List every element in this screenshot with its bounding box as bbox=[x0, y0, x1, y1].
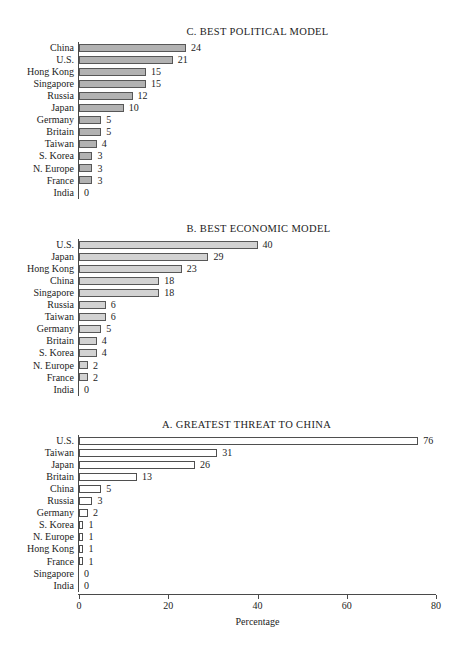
bar bbox=[79, 437, 418, 445]
category-label: France bbox=[0, 175, 74, 187]
bar-row: China18 bbox=[0, 275, 459, 287]
x-axis-tick-label: 60 bbox=[342, 600, 352, 612]
category-label: Singapore bbox=[0, 78, 74, 90]
panel-a-title: A. GREATEST THREAT TO CHINA bbox=[0, 419, 459, 430]
bar bbox=[79, 301, 106, 309]
category-label: India bbox=[0, 580, 74, 592]
category-label: Singapore bbox=[0, 287, 74, 299]
bar bbox=[79, 277, 159, 285]
bar-value-label: 3 bbox=[97, 163, 102, 175]
bar bbox=[79, 473, 137, 481]
bar-value-label: 1 bbox=[88, 531, 93, 543]
category-label: N. Europe bbox=[0, 163, 74, 175]
bar bbox=[79, 449, 217, 457]
bar bbox=[79, 80, 146, 88]
bar-value-label: 13 bbox=[142, 471, 152, 483]
category-label: S. Korea bbox=[0, 519, 74, 531]
bar bbox=[79, 68, 146, 76]
bar-row: U.S.40 bbox=[0, 239, 459, 251]
bar bbox=[79, 56, 173, 64]
bar-row: Japan26 bbox=[0, 459, 459, 471]
bar bbox=[79, 557, 83, 565]
x-axis-tick bbox=[436, 595, 437, 599]
bar bbox=[79, 497, 92, 505]
bar-value-label: 2 bbox=[93, 507, 98, 519]
bar-value-label: 29 bbox=[213, 251, 223, 263]
category-label: Russia bbox=[0, 299, 74, 311]
bar-value-label: 5 bbox=[106, 323, 111, 335]
bar bbox=[79, 128, 101, 136]
bar-row: S. Korea4 bbox=[0, 347, 459, 359]
bar-row: N. Europe1 bbox=[0, 531, 459, 543]
category-label: Russia bbox=[0, 495, 74, 507]
bar-row: Germany5 bbox=[0, 114, 459, 126]
bar-row: China5 bbox=[0, 483, 459, 495]
bar-row: Japan29 bbox=[0, 251, 459, 263]
bar-row: Russia12 bbox=[0, 90, 459, 102]
bar-row: S. Korea1 bbox=[0, 519, 459, 531]
bar bbox=[79, 533, 83, 541]
bar-value-label: 18 bbox=[164, 275, 174, 287]
category-label: Britain bbox=[0, 126, 74, 138]
bar bbox=[79, 92, 133, 100]
bar bbox=[79, 116, 101, 124]
bar-value-label: 3 bbox=[97, 175, 102, 187]
bar bbox=[79, 337, 97, 345]
panel-b-title: B. BEST ECONOMIC MODEL bbox=[0, 223, 459, 234]
x-axis-title: Percentage bbox=[0, 616, 459, 627]
category-label: U.S. bbox=[0, 435, 74, 447]
panel-c-title: C. BEST POLITICAL MODEL bbox=[0, 26, 459, 37]
bar-row: Russia6 bbox=[0, 299, 459, 311]
bar-value-label: 5 bbox=[106, 114, 111, 126]
bar bbox=[79, 253, 208, 261]
category-label: China bbox=[0, 42, 74, 54]
bar-value-label: 21 bbox=[178, 54, 188, 66]
category-label: U.S. bbox=[0, 239, 74, 251]
bar-value-label: 15 bbox=[151, 66, 161, 78]
category-label: Taiwan bbox=[0, 447, 74, 459]
bar-row: Hong Kong15 bbox=[0, 66, 459, 78]
category-label: India bbox=[0, 384, 74, 396]
bar bbox=[79, 140, 97, 148]
x-axis-tick-label: 20 bbox=[163, 600, 173, 612]
bar-row: Taiwan31 bbox=[0, 447, 459, 459]
bar-value-label: 24 bbox=[191, 42, 201, 54]
bar-row: N. Europe2 bbox=[0, 360, 459, 372]
bar-value-label: 18 bbox=[164, 287, 174, 299]
bar bbox=[79, 44, 186, 52]
bar-row: France2 bbox=[0, 372, 459, 384]
bar-row: Singapore18 bbox=[0, 287, 459, 299]
category-label: Singapore bbox=[0, 568, 74, 580]
bar bbox=[79, 361, 88, 369]
bar bbox=[79, 176, 92, 184]
category-label: N. Europe bbox=[0, 360, 74, 372]
bar bbox=[79, 373, 88, 381]
bar-row: N. Europe3 bbox=[0, 163, 459, 175]
category-label: Germany bbox=[0, 507, 74, 519]
bar-value-label: 0 bbox=[84, 580, 89, 592]
category-label: Germany bbox=[0, 114, 74, 126]
bar-value-label: 5 bbox=[106, 126, 111, 138]
bar-value-label: 2 bbox=[93, 360, 98, 372]
bar-row: Britain5 bbox=[0, 126, 459, 138]
x-axis-tick-label: 80 bbox=[431, 600, 441, 612]
category-label: Hong Kong bbox=[0, 543, 74, 555]
category-label: Hong Kong bbox=[0, 66, 74, 78]
category-label: Britain bbox=[0, 335, 74, 347]
x-axis-tick bbox=[79, 595, 80, 599]
bar-value-label: 5 bbox=[106, 483, 111, 495]
bar bbox=[79, 104, 124, 112]
bar-row: Singapore15 bbox=[0, 78, 459, 90]
category-label: N. Europe bbox=[0, 531, 74, 543]
x-axis-tick bbox=[347, 595, 348, 599]
bar-value-label: 0 bbox=[84, 187, 89, 199]
bar-row: France1 bbox=[0, 556, 459, 568]
category-label: France bbox=[0, 372, 74, 384]
bar bbox=[79, 241, 258, 249]
bar-value-label: 4 bbox=[102, 335, 107, 347]
bar bbox=[79, 313, 106, 321]
category-label: Japan bbox=[0, 102, 74, 114]
bar-row: Russia3 bbox=[0, 495, 459, 507]
x-axis-tick-label: 40 bbox=[253, 600, 263, 612]
bar-value-label: 0 bbox=[84, 384, 89, 396]
